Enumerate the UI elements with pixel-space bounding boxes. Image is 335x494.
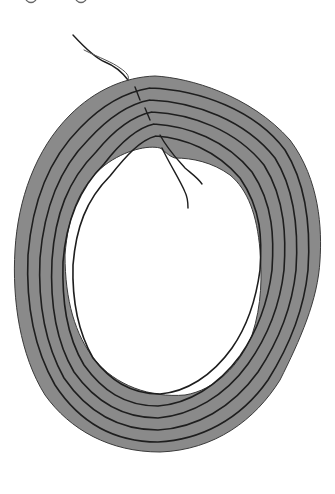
top-edge-marks (26, 0, 86, 3)
coiled-ring-illustration (0, 0, 335, 494)
ring-body (14, 76, 320, 452)
